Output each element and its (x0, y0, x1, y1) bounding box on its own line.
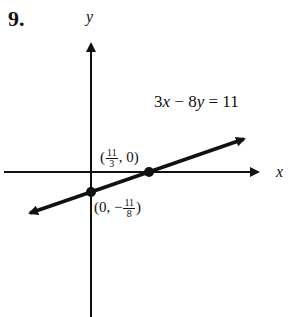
x-axis-label: x (276, 163, 283, 181)
equation: 3x − 8y = 11 (154, 92, 239, 112)
x-intercept-label: (113, 0) (100, 148, 139, 169)
y-intercept-label: (0, −118) (94, 198, 141, 219)
graph (0, 0, 290, 317)
graph-line-left (30, 192, 91, 213)
x-intercept-point (144, 167, 154, 177)
y-axis-label: y (86, 8, 93, 26)
y-intercept-point (86, 187, 96, 197)
